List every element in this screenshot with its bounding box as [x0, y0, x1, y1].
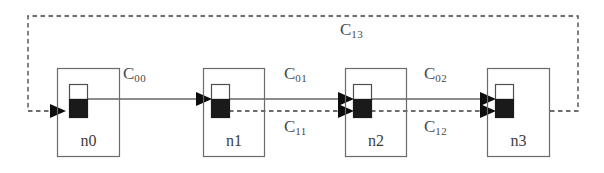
channel-label-c01-sub: 01: [295, 72, 307, 84]
arrowhead-group: [50, 92, 496, 118]
buffer-top-cell-n0: [70, 85, 88, 100]
channel-label-c00-base: C: [123, 64, 134, 83]
channel-label-c00-sub: 00: [134, 72, 146, 84]
channel-label-c11-sub: 11: [295, 125, 306, 137]
channel-label-c12-sub: 12: [435, 125, 447, 137]
channel-label-c02: C02: [424, 65, 447, 82]
channel-label-c13-base: C: [340, 20, 351, 39]
node-label-n1: n1: [203, 133, 265, 149]
node-label-n2: n2: [345, 133, 407, 149]
buffer-top-cell-n1: [212, 85, 230, 100]
buffer-n1: [212, 85, 230, 118]
buffer-top-cell-n3: [496, 85, 514, 100]
channel-label-c13: C13: [340, 21, 363, 38]
channel-label-c00: C00: [123, 65, 146, 82]
buffer-bottom-cell-n3: [496, 100, 514, 118]
diagram-canvas: C00 C01 C02 C11 C12 C13 n0 n1 n2 n3: [0, 0, 604, 173]
channel-label-c12-base: C: [424, 117, 435, 136]
node-buffers: [70, 85, 514, 118]
channel-label-c12: C12: [424, 118, 447, 135]
channel-label-c01: C01: [284, 65, 307, 82]
buffer-top-cell-n2: [354, 85, 372, 100]
buffer-n3: [496, 85, 514, 118]
buffer-n0: [70, 85, 88, 118]
buffer-n2: [354, 85, 372, 118]
node-label-n0: n0: [57, 133, 120, 149]
buffer-bottom-cell-n1: [212, 100, 230, 118]
channel-label-c11: C11: [284, 118, 307, 135]
node-label-n3: n3: [487, 133, 550, 149]
channel-label-c13-sub: 13: [351, 28, 363, 40]
channel-label-c11-base: C: [284, 117, 295, 136]
channel-label-c02-base: C: [424, 64, 435, 83]
channel-label-c01-base: C: [284, 64, 295, 83]
buffer-bottom-cell-n0: [70, 100, 88, 118]
channel-label-c02-sub: 02: [435, 72, 447, 84]
buffer-bottom-cell-n2: [354, 100, 372, 118]
